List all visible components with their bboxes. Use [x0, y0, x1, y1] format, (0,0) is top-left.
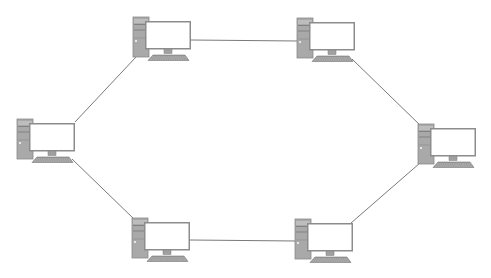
- link-pc-left-to-pc-top-left: [75, 57, 136, 122]
- desktop-computer-icon: [295, 17, 357, 63]
- desktop-computer-icon: [15, 118, 77, 164]
- desktop-computer-icon: [416, 123, 478, 169]
- computer-node-pc-right: [416, 123, 478, 169]
- link-pc-top-right-to-pc-right: [352, 59, 422, 127]
- computer-node-pc-top-left: [131, 16, 193, 62]
- ring-links: [72, 40, 422, 241]
- computer-node-pc-top-right: [295, 17, 357, 63]
- desktop-computer-icon: [293, 218, 355, 264]
- link-pc-bottom-left-to-pc-left: [72, 159, 134, 219]
- link-pc-right-to-pc-bottom-right: [351, 163, 420, 223]
- computer-node-pc-bottom-left: [130, 217, 192, 263]
- desktop-computer-icon: [130, 217, 192, 263]
- desktop-computer-icon: [131, 16, 193, 62]
- link-pc-top-left-to-pc-top-right: [191, 40, 298, 41]
- computer-node-pc-bottom-right: [293, 218, 355, 264]
- computer-node-pc-left: [15, 118, 77, 164]
- link-pc-bottom-right-to-pc-bottom-left: [190, 240, 296, 241]
